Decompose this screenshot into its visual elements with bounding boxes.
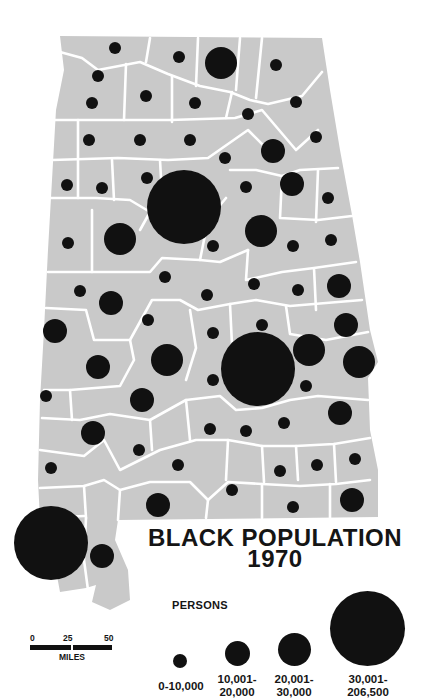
population-symbol [140,90,152,102]
legend-circle-class-2 [225,641,250,666]
population-symbol [14,506,88,580]
population-symbol [189,97,201,109]
population-symbol [207,374,219,386]
population-symbol [328,401,352,425]
population-symbol [133,444,145,456]
population-symbol [43,319,67,343]
population-symbol [242,108,254,120]
population-symbol [280,172,304,196]
population-symbol [290,96,302,108]
scale-bar: 0 25 50 MILES [30,633,114,662]
legend-circle-class-4 [330,591,405,666]
population-symbol [205,47,237,79]
population-symbol [86,355,110,379]
legend-circle-class-3 [278,633,311,666]
legend-label-class-2: 10,001- 20,000 [205,673,269,698]
population-symbol [327,274,351,298]
scale-tick-25: 25 [63,633,72,643]
population-symbol [300,380,312,392]
scale-tick-0: 0 [30,633,35,643]
population-symbol [325,234,337,246]
population-symbol [184,134,196,146]
population-symbol [343,346,375,378]
legend-label-class-3: 20,001- 30,000 [262,673,326,698]
population-symbol [287,240,299,252]
population-symbol [146,493,170,517]
population-symbol [86,97,98,109]
population-symbol [322,192,334,204]
population-symbol [130,388,154,412]
population-symbol [334,313,358,337]
population-symbol [219,152,231,164]
population-symbol [311,459,323,471]
population-symbol [207,327,219,339]
population-symbol [293,334,325,366]
scale-unit: MILES [30,652,114,662]
scale-segment-1 [30,645,71,650]
population-symbol [45,462,57,474]
population-symbol [240,425,252,437]
population-symbol [92,70,104,82]
legend-circle-class-1 [173,654,187,668]
population-symbol [159,271,171,283]
legend-heading: PERSONS [172,599,228,611]
map-title: BLACK POPULATION 1970 [130,527,420,569]
population-symbol [261,139,285,163]
population-symbol [172,459,184,471]
population-symbol [99,291,123,315]
population-symbol [201,289,213,301]
population-symbol [40,390,52,402]
population-symbol [207,240,219,252]
population-symbol [340,488,364,512]
population-symbol [62,237,74,249]
population-symbol [74,285,86,297]
population-symbol [270,59,282,71]
population-symbol [81,421,105,445]
population-symbol [147,170,221,244]
population-symbol [61,179,73,191]
population-symbol [83,134,95,146]
population-symbol [292,284,304,296]
population-symbol [151,344,183,376]
population-symbol [142,314,154,326]
population-symbol [96,182,108,194]
population-symbol [204,423,216,435]
population-symbol [104,223,136,255]
population-symbol [287,501,299,513]
population-symbol [221,332,295,406]
legend-label-class-4: 30,001- 206,500 [330,673,406,698]
scale-tick-50: 50 [104,633,113,643]
population-symbol [274,465,286,477]
population-symbol [310,131,322,143]
population-symbol [173,51,185,63]
population-symbol [226,484,238,496]
population-symbol [349,453,361,465]
scale-bar-graphic [30,645,114,650]
population-symbol [248,278,260,290]
population-symbol [245,215,277,247]
population-symbol [90,544,114,568]
population-symbol [141,172,153,184]
scale-segment-2 [73,645,112,650]
population-symbol [256,319,268,331]
population-symbol [109,42,121,54]
map-title-line2: 1970 [130,548,420,569]
population-symbol [240,181,252,193]
scale-ticks: 0 25 50 [30,633,114,645]
population-symbol [278,417,290,429]
population-symbol [134,134,146,146]
